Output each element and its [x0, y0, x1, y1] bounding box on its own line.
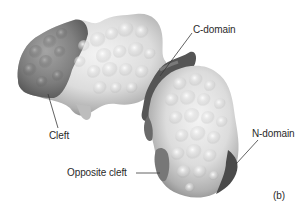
c-domain-label: C-domain: [193, 25, 236, 35]
n-domain-surface: [144, 66, 239, 198]
n-domain-label: N-domain: [252, 129, 295, 139]
cleft-label: Cleft: [49, 131, 69, 141]
protein-surface-illustration: [0, 0, 308, 214]
opposite-cleft-label: Opposite cleft: [67, 168, 127, 178]
protein-surface-figure: C-domain Cleft N-domain Opposite cleft (…: [0, 0, 308, 214]
panel-label: (b): [273, 191, 285, 201]
n-domain-leader-line: [236, 140, 258, 164]
